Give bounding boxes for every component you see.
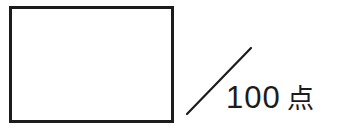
- max-score-label: 100点: [226, 80, 314, 117]
- max-points: 100: [226, 80, 281, 115]
- points-unit: 点: [287, 83, 314, 114]
